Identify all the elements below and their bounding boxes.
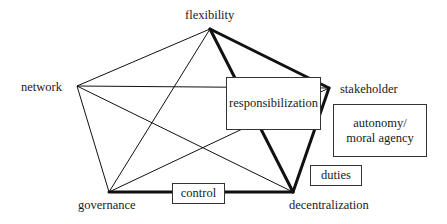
box-responsibilization: responsibilization (226, 77, 321, 130)
node-label-decentralization: decentralization (289, 198, 369, 212)
edge-flexibility-governance (109, 29, 210, 192)
node-label-network: network (21, 80, 62, 94)
box-control: control (172, 183, 225, 204)
box-control-label: control (181, 186, 216, 201)
node-label-stakeholder: stakeholder (340, 82, 398, 96)
box-autonomy-line2: moral agency (346, 131, 414, 146)
box-autonomy-moral-agency: autonomy/ moral agency (333, 104, 427, 157)
box-autonomy-line1: autonomy/ (353, 116, 406, 131)
edge-network-governance (77, 86, 109, 192)
node-label-governance: governance (78, 198, 136, 212)
box-responsibilization-label: responsibilization (229, 96, 318, 111)
box-duties-label: duties (321, 168, 351, 183)
node-label-flexibility: flexibility (185, 8, 234, 22)
box-duties: duties (310, 165, 362, 186)
edge-flexibility-network (77, 29, 210, 86)
